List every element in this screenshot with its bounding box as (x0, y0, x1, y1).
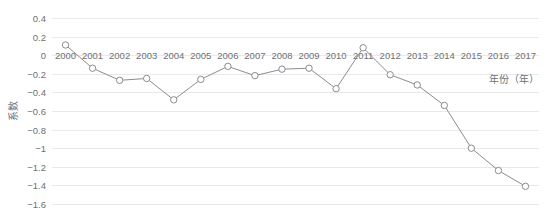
data-point-marker[interactable] (171, 97, 177, 103)
data-point-marker[interactable] (522, 183, 528, 189)
data-series-layer (0, 0, 551, 221)
data-point-marker[interactable] (62, 42, 68, 48)
line-chart: 系数 0.40.20−0.2−0.4−0.6−0.8−1−1.2−1.4−1.6… (0, 0, 551, 221)
data-point-marker[interactable] (495, 167, 501, 173)
data-point-marker[interactable] (143, 75, 149, 81)
data-point-marker[interactable] (252, 72, 258, 78)
data-point-marker[interactable] (279, 66, 285, 72)
data-point-marker[interactable] (89, 65, 95, 71)
data-point-marker[interactable] (414, 82, 420, 88)
data-point-marker[interactable] (441, 102, 447, 108)
data-point-marker[interactable] (306, 65, 312, 71)
data-point-marker[interactable] (225, 63, 231, 69)
data-point-marker[interactable] (387, 72, 393, 78)
data-point-marker[interactable] (198, 76, 204, 82)
data-point-marker[interactable] (468, 145, 474, 151)
data-point-marker[interactable] (116, 77, 122, 83)
data-point-marker[interactable] (333, 85, 339, 91)
data-point-marker[interactable] (360, 45, 366, 51)
series-line (66, 45, 526, 186)
